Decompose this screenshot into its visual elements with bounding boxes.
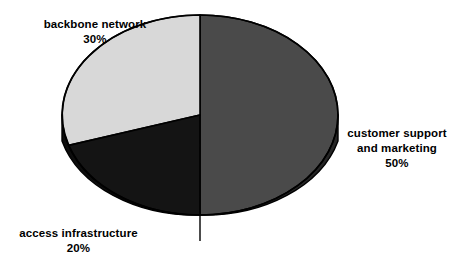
- slice-label-backbone-network-text: backbone network: [20, 17, 170, 32]
- slice-label-access-infrastructure-text: access infrastructure: [12, 226, 145, 241]
- slice-label-access-infrastructure: access infrastructure 20%: [12, 226, 145, 256]
- pie-chart-page: backbone network 30% customer support an…: [0, 0, 461, 268]
- slice-label-customer-support-value: 50%: [336, 156, 458, 171]
- slice-label-customer-support-and-marketing: customer support and marketing 50%: [336, 126, 458, 171]
- slice-label-access-infrastructure-value: 20%: [12, 241, 145, 256]
- slice-label-backbone-network: backbone network 30%: [20, 17, 170, 47]
- slice-label-backbone-network-value: 30%: [20, 32, 170, 47]
- slice-label-customer-support-line-2: and marketing: [336, 141, 458, 156]
- slice-label-customer-support-line-1: customer support: [336, 126, 458, 141]
- pie-slice-customer-support-and-marketing[interactable]: [200, 15, 338, 215]
